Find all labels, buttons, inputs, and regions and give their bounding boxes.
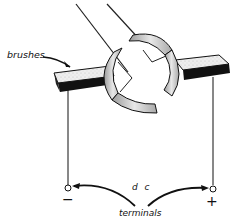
positive-sign: + [206,194,218,208]
right-brush [175,55,230,80]
terminals-label: terminals [119,208,161,218]
positive-terminal [210,186,216,192]
terminals-arrow-left [74,185,135,206]
negative-sign: − [62,192,74,206]
commutator-diagram [0,0,231,223]
brushes-label: brushes [7,49,45,60]
dc-label: d c [132,182,152,192]
terminals-arrow-right [148,188,206,206]
commutator-segment-right [129,34,179,96]
